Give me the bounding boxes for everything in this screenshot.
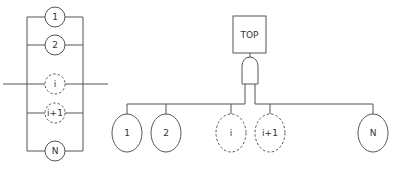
event-label: 2	[163, 128, 169, 138]
basic-event-n: N	[358, 114, 388, 152]
parallel-branch-i-plus-1: i+1	[27, 103, 83, 123]
event-label: i	[230, 128, 233, 138]
component-label: N	[52, 146, 59, 156]
parallel-branch-1: 1	[27, 7, 83, 27]
component-label: i+1	[47, 108, 63, 118]
parallel-branch-n: N	[27, 141, 83, 161]
basic-event-i-plus-1: i+1	[255, 114, 285, 152]
fault-tree-diagram: TOP 1 2 i i+1	[112, 16, 388, 152]
top-event-label: TOP	[239, 30, 259, 40]
event-label: N	[370, 128, 377, 138]
component-label: i	[54, 79, 57, 89]
basic-event-1: 1	[112, 114, 142, 152]
component-label: 2	[52, 40, 58, 50]
event-label: 1	[124, 128, 130, 138]
parallel-branch-i: i	[27, 74, 83, 94]
basic-event-i: i	[216, 114, 246, 152]
basic-event-2: 2	[151, 114, 181, 152]
top-event: TOP	[233, 16, 266, 53]
component-label: 1	[52, 12, 58, 22]
and-gate-icon	[242, 57, 258, 84]
event-label: i+1	[262, 128, 278, 138]
parallel-branch-2: 2	[27, 35, 83, 55]
parallel-system-diagram: 1 2 i i+1 N	[3, 7, 108, 161]
